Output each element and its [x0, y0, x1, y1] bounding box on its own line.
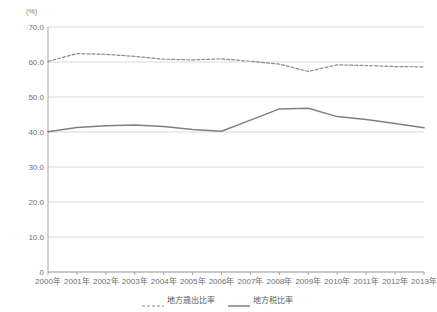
x-tick-label: 2001年: [64, 275, 90, 286]
legend-swatch-icon: [228, 296, 250, 304]
chart-legend: 地方歳出比率地方税比率: [0, 294, 434, 305]
legend-item[interactable]: 地方税比率: [228, 294, 293, 305]
x-tick-label: 2009年: [295, 275, 321, 286]
x-tick-label: 2011年: [354, 275, 379, 286]
y-tick-label: 20.0: [0, 198, 44, 207]
x-tick-label: 2006年: [209, 275, 235, 286]
x-tick-label: 2005年: [180, 275, 206, 286]
y-tick-label: 50.0: [0, 93, 44, 102]
legend-label: 地方歳出比率: [167, 294, 215, 305]
x-tick-label: 2007年: [238, 275, 264, 286]
y-tick-label: 70.0: [0, 23, 44, 32]
plot-area: [48, 27, 424, 272]
y-tick-label: 60.0: [0, 58, 44, 67]
y-tick-label: 40.0: [0, 128, 44, 137]
y-tick-label: 30.0: [0, 163, 44, 172]
x-tick-label: 2003年: [122, 275, 148, 286]
x-axis-tick-labels: 2000年2001年2002年2003年2004年2005年2006年2007年…: [48, 275, 424, 291]
x-tick-label: 2000年: [35, 275, 61, 286]
x-tick-label: 2012年: [382, 275, 408, 286]
x-tick-label: 2002年: [93, 275, 119, 286]
x-tick-label: 2010年: [324, 275, 350, 286]
legend-swatch-icon: [142, 296, 164, 304]
series-lines: [48, 27, 424, 272]
x-tick-label: 2008年: [266, 275, 292, 286]
y-axis-unit-label: (%): [26, 7, 37, 16]
y-tick-label: 10.0: [0, 233, 44, 242]
legend-item[interactable]: 地方歳出比率: [142, 294, 215, 305]
series-line: [48, 108, 424, 131]
x-tick-label: 2004年: [151, 275, 177, 286]
legend-label: 地方税比率: [253, 294, 293, 305]
x-tick-label: 2013年: [411, 275, 437, 286]
series-line: [48, 54, 424, 72]
y-axis-tick-labels: 70.060.050.040.030.020.010.00: [0, 27, 44, 272]
